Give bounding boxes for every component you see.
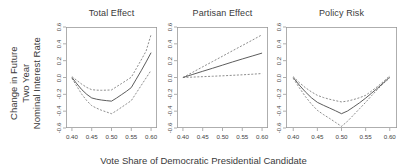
x-tick-label: 0.45 [197,133,209,140]
plot-panel-total-effect [66,27,157,128]
plot-frame [286,27,396,127]
y-tick-label: 0.6 [166,23,173,32]
panel-title-policy-risk: Policy Risk [286,8,397,18]
y-tick-label: 0.0 [275,73,282,82]
x-tick-label: 0.45 [86,133,98,140]
x-tick-label: 0.40 [66,133,78,140]
x-tick-label: 0.60 [145,133,157,140]
x-tick-label: 0.55 [360,133,372,140]
series-confidence-bound [293,76,390,102]
y-tick-label: 0.2 [166,56,173,65]
panel-title-total-effect: Total Effect [66,8,157,18]
x-tick-label: 0.45 [311,133,323,140]
x-tick-label: 0.50 [335,133,347,140]
y-tick-label: -0.2 [55,89,62,100]
y-tick-label: 0.6 [275,23,282,32]
y-tick-label: 0.6 [55,23,62,32]
y-tick-label: -0.4 [55,106,62,117]
series-point-estimate [293,77,390,114]
y-axis-title-line-3: Nominal Interest Rate [31,38,43,130]
x-tick-label: 0.50 [216,133,228,140]
y-tick-label: 0.0 [55,73,62,82]
y-tick-label: -0.4 [275,106,282,117]
x-tick-label: 0.40 [287,133,299,140]
x-tick-label: 0.60 [256,133,268,140]
y-axis-title-line-1: Change in Future [8,38,20,130]
y-axis-title: Change in Future Two Year Nominal Intere… [2,0,48,167]
y-tick-label: -0.2 [275,89,282,100]
y-tick-label: 0.2 [275,56,282,65]
y-tick-label: -0.6 [166,123,173,134]
y-tick-label: 0.0 [166,73,173,82]
y-tick-label: 0.4 [55,40,62,49]
plot-area [66,27,157,128]
x-axis-title: Vote Share of Democratic Presidential Ca… [0,155,407,166]
figure-panel-chart: Change in Future Two Year Nominal Intere… [0,0,407,167]
y-axis-title-line-2: Two Year [19,38,31,130]
x-tick-label: 0.60 [384,133,396,140]
plot-panel-policy-risk [286,27,397,128]
series-confidence-bound [72,35,151,91]
y-tick-label: -0.6 [275,123,282,134]
plot-area [286,27,397,128]
y-tick-label: 0.2 [55,56,62,65]
y-tick-label: -0.2 [166,89,173,100]
y-tick-label: -0.4 [166,106,173,117]
series-confidence-bound [183,35,262,78]
y-tick-label: 0.4 [275,40,282,49]
x-tick-label: 0.55 [125,133,137,140]
panel-title-partisan-effect: Partisan Effect [177,8,268,18]
plot-panel-partisan-effect [177,27,268,128]
y-tick-label: 0.4 [166,40,173,49]
plot-frame [66,27,156,127]
x-tick-label: 0.50 [105,133,117,140]
y-tick-label: -0.6 [55,123,62,134]
series-point-estimate [72,53,151,101]
x-tick-label: 0.40 [177,133,189,140]
x-tick-label: 0.55 [236,133,248,140]
series-point-estimate [183,53,262,77]
plot-area [177,27,268,128]
